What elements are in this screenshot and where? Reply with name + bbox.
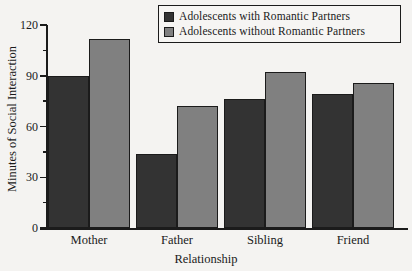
legend-label-with-partners: Adolescents with Romantic Partners bbox=[179, 10, 350, 23]
y-tick-label: 120 bbox=[2, 19, 38, 31]
bar-mother-series1 bbox=[48, 76, 89, 228]
x-category-label-friend: Friend bbox=[312, 233, 394, 247]
x-axis-line bbox=[40, 228, 408, 230]
y-tick-major bbox=[40, 75, 47, 77]
y-tick-major bbox=[40, 227, 47, 229]
y-tick-label: 0 bbox=[2, 222, 38, 234]
x-category-label-sibling: Sibling bbox=[224, 233, 306, 247]
x-category-label-mother: Mother bbox=[48, 233, 130, 247]
bar-father-series2 bbox=[177, 106, 218, 228]
chart-figure: Adolescents with Romantic Partners Adole… bbox=[0, 0, 412, 271]
bar-friend-series1 bbox=[312, 94, 353, 228]
legend-item-with-partners: Adolescents with Romantic Partners bbox=[164, 9, 395, 24]
y-tick-major bbox=[40, 126, 47, 128]
y-tick-major bbox=[40, 177, 47, 179]
x-axis-title: Relationship bbox=[0, 252, 412, 266]
plot-area bbox=[47, 25, 405, 228]
bar-father-series1 bbox=[136, 154, 177, 228]
x-category-label-father: Father bbox=[136, 233, 218, 247]
y-axis-title: Minutes of Social Interaction bbox=[5, 39, 19, 199]
bar-friend-series2 bbox=[353, 83, 394, 228]
y-tick-major bbox=[40, 24, 47, 26]
bar-sibling-series2 bbox=[265, 72, 306, 228]
bar-sibling-series1 bbox=[224, 99, 265, 228]
bar-mother-series2 bbox=[89, 39, 130, 228]
legend-swatch-with-partners bbox=[164, 12, 174, 22]
